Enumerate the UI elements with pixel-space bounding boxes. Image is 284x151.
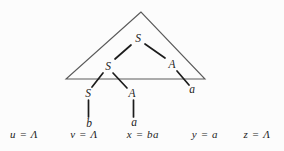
tree-edge-A-mid-a-right (177, 71, 189, 85)
triangle-outline (66, 12, 205, 79)
tree-node-a-leaf: a (131, 116, 137, 128)
tree-node-a-right: a (189, 83, 195, 95)
derivation-tree-svg: SSASAabau = Λv = Λx = bay = az = Λ (0, 0, 284, 151)
tree-node-S-mid: S (105, 60, 111, 72)
tree-node-A-low: A (127, 87, 136, 99)
equation-v: v = Λ (70, 128, 97, 140)
equation-u: u = Λ (10, 128, 38, 140)
equation-x: x = ba (126, 128, 159, 140)
tree-node-S-root: S (135, 32, 141, 44)
tree-edge-S-mid-S-low (92, 73, 103, 87)
equation-y: y = a (191, 128, 218, 140)
tree-edge-S-root-S-mid (115, 45, 131, 59)
derivation-tree-figure: SSASAabau = Λv = Λx = bay = az = Λ (0, 0, 284, 151)
equation-z: z = Λ (243, 128, 271, 140)
tree-node-A-mid: A (167, 58, 176, 70)
tree-edge-S-root-A-mid (145, 44, 165, 58)
tree-node-S-low: S (85, 87, 91, 99)
tree-edge-S-mid-A-low (113, 73, 127, 88)
